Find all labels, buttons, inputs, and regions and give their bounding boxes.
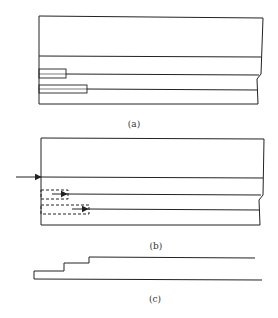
panel-b-line-1: [41, 177, 263, 178]
panel-a: [39, 16, 263, 104]
panel-a-line-3: [87, 89, 257, 90]
panel-b: [16, 138, 264, 225]
panel-a-label: (a): [128, 119, 140, 129]
panel-a-line-2: [66, 74, 259, 75]
panel-b-line-3: [88, 209, 259, 210]
panel-b-line-2: [67, 194, 261, 195]
panel-b-label: (b): [150, 241, 163, 251]
panel-a-line-1: [39, 56, 261, 57]
panel-c-step-profile: [34, 257, 262, 280]
diagram-canvas: [0, 0, 278, 318]
panel-a-small-rect-1: [39, 69, 66, 78]
panel-c-label: (c): [149, 294, 161, 304]
panel-b-outline: [41, 138, 264, 225]
panel-c: [34, 257, 262, 280]
panel-a-outline: [39, 16, 263, 104]
